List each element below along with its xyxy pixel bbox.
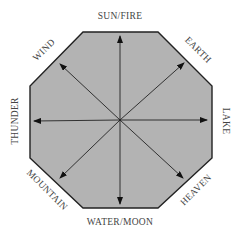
label-lake: LAKE — [221, 108, 231, 135]
label-water-moon: WATER/MOON — [87, 217, 153, 227]
trigram-octagon-diagram: SUN/FIRE WATER/MOON THUNDER LAKE WIND EA… — [0, 0, 241, 231]
label-earth: EARTH — [183, 35, 213, 65]
label-wind: WIND — [31, 37, 57, 63]
label-sun-fire: SUN/FIRE — [98, 11, 143, 21]
label-thunder: THUNDER — [10, 97, 20, 145]
